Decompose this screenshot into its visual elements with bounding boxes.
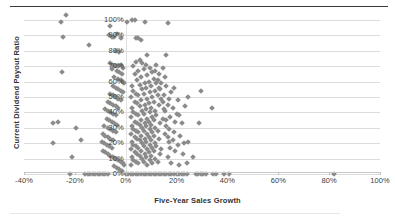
data-point [165, 20, 171, 26]
y-tick-label: 50% [90, 92, 124, 101]
x-axis-line [24, 172, 380, 173]
data-point [108, 23, 114, 29]
data-point [172, 119, 178, 125]
x-tick [75, 172, 76, 175]
data-point [141, 66, 147, 72]
data-point [170, 105, 176, 111]
y-tick-label: 20% [90, 138, 124, 147]
x-tick-label: 80% [309, 176, 349, 185]
footer-divider [10, 213, 340, 214]
x-tick-label: 20% [157, 176, 197, 185]
zero-axis-line [126, 20, 127, 174]
data-point [169, 160, 175, 166]
gridline [24, 51, 380, 52]
y-tick-label: 0% [90, 169, 124, 178]
y-tick-label: 70% [90, 61, 124, 70]
data-point [162, 74, 168, 80]
gridline [24, 20, 380, 21]
plot-area [24, 20, 380, 174]
scatter-chart: -40%-20%0%20%40%60%80%100% 0%10%20%30%40… [0, 0, 395, 218]
data-point [160, 65, 166, 71]
x-tick [177, 172, 178, 175]
x-tick-label: 100% [360, 176, 395, 185]
x-tick-label: 60% [258, 176, 298, 185]
data-point [164, 53, 170, 59]
data-point [78, 137, 84, 143]
data-point [155, 128, 161, 134]
data-point [50, 140, 56, 146]
y-tick-label: 100% [90, 15, 124, 24]
x-tick-label: -40% [4, 176, 44, 185]
data-point [157, 151, 163, 157]
data-point [185, 94, 191, 100]
data-point [144, 53, 150, 59]
gridline [24, 143, 380, 144]
data-point [55, 119, 61, 125]
gridline [24, 82, 380, 83]
data-point [171, 130, 177, 136]
data-point [167, 114, 173, 120]
data-point [63, 13, 69, 19]
y-tick-label: 90% [90, 30, 124, 39]
data-point [176, 162, 182, 168]
y-axis-title: Current Dividend Payout Ratio [12, 23, 21, 163]
y-tick-label: 30% [90, 123, 124, 132]
x-axis-title: Five-Year Sales Growth [0, 196, 395, 205]
data-point [209, 105, 215, 111]
data-point [197, 120, 203, 126]
data-point [179, 120, 185, 126]
x-tick [329, 172, 330, 175]
data-point [59, 70, 65, 76]
header-divider [10, 6, 388, 7]
gridline [24, 35, 380, 36]
x-tick [126, 172, 127, 175]
data-point [198, 88, 204, 94]
data-point [172, 148, 178, 154]
y-tick-label: 40% [90, 107, 124, 116]
data-point [180, 151, 186, 157]
data-point [156, 136, 162, 142]
data-point [171, 85, 177, 91]
data-point [175, 97, 181, 103]
data-point [144, 73, 150, 79]
gridline [24, 97, 380, 98]
data-point [155, 159, 161, 165]
gridline [24, 112, 380, 113]
x-tick [380, 172, 381, 175]
y-tick-label: 10% [90, 154, 124, 163]
data-point [184, 160, 190, 166]
data-point [128, 114, 134, 120]
gridline [24, 66, 380, 67]
x-tick [278, 172, 279, 175]
gridline [24, 159, 380, 160]
data-point [178, 133, 184, 139]
x-tick-label: 40% [207, 176, 247, 185]
y-tick-label: 80% [90, 46, 124, 55]
x-tick [24, 172, 25, 175]
data-point [176, 113, 182, 119]
x-tick [227, 172, 228, 175]
data-point [128, 94, 134, 100]
data-point [138, 37, 144, 43]
data-point [157, 120, 163, 126]
data-point [73, 125, 79, 131]
data-point [183, 103, 189, 109]
data-point [164, 83, 170, 89]
y-tick-label: 60% [90, 77, 124, 86]
